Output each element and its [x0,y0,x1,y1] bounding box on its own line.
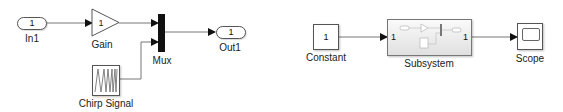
constant-value: 1 [323,32,328,42]
scope-label: Scope [516,54,544,64]
out1-label: Out1 [219,43,241,53]
subsystem-label: Subsystem [404,59,453,69]
out1-block[interactable]: 1 [216,26,246,39]
mux-label: Mux [153,56,172,66]
in1-value: 1 [29,18,34,28]
mux-block[interactable] [158,14,165,52]
gain-value: 1 [98,18,103,28]
scope-screen-icon [522,28,540,41]
subsystem-block[interactable]: 1 1 [387,19,472,56]
in1-block[interactable]: 1 [17,17,47,30]
out1-value: 1 [228,27,233,37]
chirp-wave-icon [93,66,119,95]
chirp-signal-block[interactable] [92,65,120,96]
diagram-canvas: 1 In1 1 Gain Mux 1 Out1 Chirp Signal 1 C… [0,0,563,112]
constant-label: Constant [306,53,346,63]
signal-lines [0,0,563,112]
in1-label: In1 [25,34,39,44]
chirp-signal-label: Chirp Signal [79,99,133,109]
scope-block[interactable] [517,23,543,50]
gain-label: Gain [91,40,112,50]
gain-block[interactable] [92,9,119,36]
constant-block[interactable]: 1 [313,24,339,50]
subsystem-preview-icon [388,20,473,57]
